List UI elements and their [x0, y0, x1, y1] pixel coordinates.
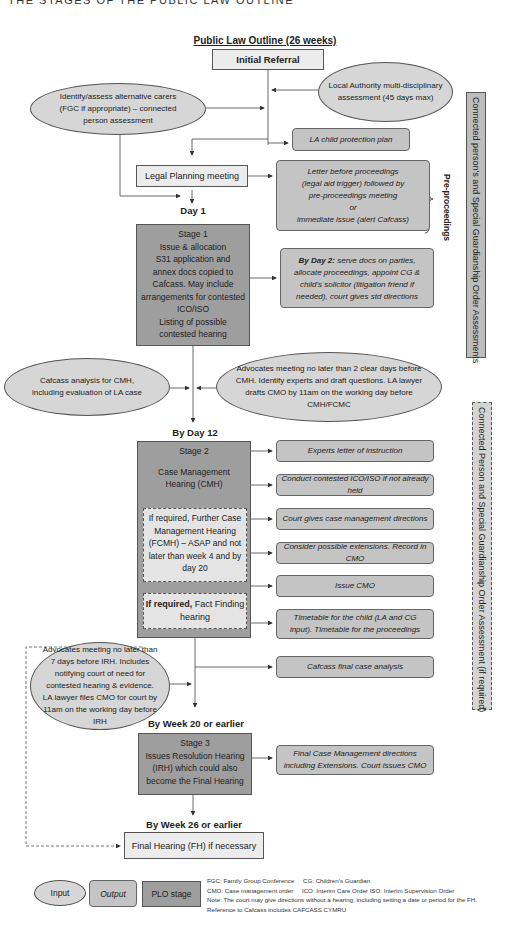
alt-carers-input: Identify/assess alternative carers (FGC …: [30, 83, 206, 135]
experts-letter-output: Experts letter of instruction: [276, 440, 434, 462]
legend-plo-stage: PLO stage: [142, 881, 201, 907]
connected-person-assessments-bar: Connected person's and Special Guardians…: [466, 92, 486, 358]
stage1-box: Stage 1 Issue & allocation S31 applicati…: [136, 224, 250, 346]
by-day12-label: By Day 12: [162, 427, 228, 438]
stage3-box: Stage 3 Issues Resolution Hearing (IRH) …: [138, 733, 252, 795]
letter-before-output: Letter before proceedings (legal aid tri…: [276, 160, 430, 231]
legend-output: Output: [89, 880, 137, 907]
advocates-irh-input: Advocates meeting no later than 7 days b…: [30, 642, 170, 730]
connector-lines: [0, 0, 528, 941]
pre-proceedings-label: Pre-proceedings: [440, 170, 454, 240]
legal-planning-box: Legal Planning meeting: [136, 165, 248, 187]
contested-ico-output: Conduct contested ICO/ISO if not already…: [276, 474, 434, 496]
initial-referral-box: Initial Referral: [212, 49, 324, 70]
legend-notes: FGC: Family Group Conference CG: Childre…: [207, 876, 477, 914]
final-case-directions-output: Final Case Management directions includi…: [276, 745, 434, 775]
day1-label: Day 1: [172, 205, 214, 216]
fcmh-box: If required, Further Case Management Hea…: [143, 508, 247, 582]
la-assessment-input: Local Authority multi-disciplinary asses…: [318, 62, 453, 122]
legend-input: Input: [34, 880, 86, 906]
final-hearing-box: Final Hearing (FH) if necessary: [124, 832, 264, 859]
issue-cmo-output: Issue CMO: [276, 575, 434, 597]
la-child-protection-output: LA child protection plan: [292, 128, 410, 151]
extensions-output: Consider possible extensions. Record in …: [276, 542, 434, 564]
fact-finding-box: If required, Fact Finding hearing: [143, 593, 247, 629]
advocates-cmh-input: Advocates meeting no later than 2 clear …: [216, 352, 442, 422]
cafcass-final-output: Cafcass final case analysis: [276, 656, 434, 678]
case-directions-output: Court gives case management directions: [276, 508, 434, 530]
by-week20-label: By Week 20 or earlier: [148, 718, 242, 729]
connected-person-assessment-if-required-bar: Connected Person and Special Guardianshi…: [472, 402, 492, 710]
cafcass-cmh-input: Cafcass analysis for CMH, including eval…: [4, 358, 170, 416]
by-day2-output: By Day 2: serve docs on parties, allocat…: [280, 248, 434, 308]
timetable-output: Timetable for the child (LA and CG input…: [276, 609, 434, 639]
by-week26-label: By Week 26 or earlier: [146, 819, 242, 830]
